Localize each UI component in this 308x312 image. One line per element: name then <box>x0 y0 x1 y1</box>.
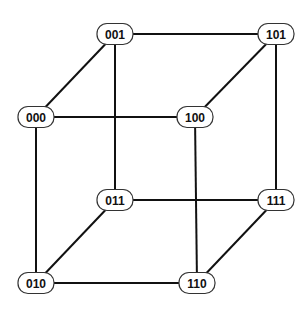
node-101: 101 <box>258 24 294 45</box>
nodes: 001101000100011111010110 <box>18 24 294 294</box>
node-label: 001 <box>105 28 125 42</box>
edges <box>36 34 276 283</box>
node-100: 100 <box>177 107 213 128</box>
node-label: 000 <box>26 111 46 125</box>
node-label: 101 <box>266 28 286 42</box>
node-110: 110 <box>179 273 215 294</box>
edge-000-001 <box>36 34 115 117</box>
hypercube-diagram: 001101000100011111010110 <box>0 0 308 312</box>
edge-100-110 <box>195 117 197 283</box>
node-011: 011 <box>97 190 133 211</box>
node-010: 010 <box>18 273 54 294</box>
node-label: 010 <box>26 277 46 291</box>
edge-010-011 <box>36 200 115 283</box>
node-label: 011 <box>105 194 125 208</box>
edge-110-111 <box>197 200 276 283</box>
node-label: 110 <box>187 277 207 291</box>
node-label: 100 <box>185 111 205 125</box>
node-111: 111 <box>258 190 294 211</box>
node-000: 000 <box>18 107 54 128</box>
node-001: 001 <box>97 24 133 45</box>
edge-100-101 <box>195 34 276 117</box>
node-label: 111 <box>267 194 286 208</box>
